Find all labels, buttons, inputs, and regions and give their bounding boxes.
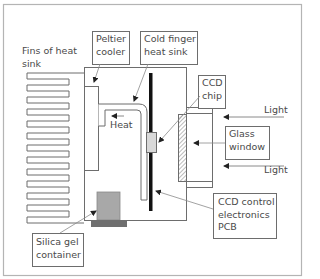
label-light-top: Light [264, 104, 288, 117]
label-ccd-control-pcb: CCD control electronics PCB [218, 196, 275, 234]
peltier-cooler-block [85, 87, 99, 171]
label-peltier-cooler: Peltier cooler [96, 33, 126, 58]
label-cold-finger: Cold finger heat sink [144, 33, 196, 58]
window-frame-bottom [187, 182, 213, 188]
ccd-chip [147, 133, 157, 153]
label-light-bottom: Light [264, 164, 288, 177]
glass-window [179, 115, 187, 182]
label-fins-of-heat-sink: Fins of heat sink [22, 45, 77, 70]
heat-sink-fins [27, 73, 84, 223]
label-glass-window: Glass window [229, 128, 265, 153]
label-heat: Heat [110, 119, 133, 132]
label-silica-gel-container: Silica gel container [36, 236, 81, 261]
label-ccd-chip: CCD chip [202, 77, 223, 102]
silica-gel-container [97, 192, 120, 220]
silica-gel-base [91, 220, 127, 227]
